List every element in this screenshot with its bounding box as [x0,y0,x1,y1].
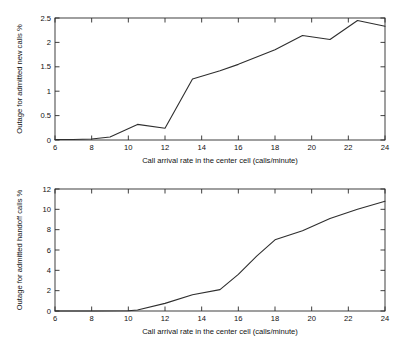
x-tick-label: 6 [53,143,57,152]
y-tick-label: 2 [47,286,51,295]
chart-panel-new-calls: 68101214161820222400.511.522.5Call arriv… [0,0,407,174]
x-tick-label: 8 [90,314,94,323]
y-tick-label: 2 [47,38,51,47]
x-tick-label: 12 [161,143,169,152]
x-tick-label: 14 [197,143,205,152]
x-tick-label: 12 [161,314,169,323]
x-tick-label: 18 [271,143,279,152]
new-calls-outage-chart: 68101214161820222400.511.522.5Call arriv… [0,0,407,174]
y-tick-label: 12 [43,185,51,194]
y-tick-label: 1.5 [40,62,51,71]
x-tick-label: 24 [381,314,389,323]
y-axis-title: Outage for admitted new calls % [15,24,24,134]
x-tick-label: 8 [90,143,94,152]
series-line-handoff-calls-outage [55,201,385,311]
y-tick-label: 0.5 [40,111,51,120]
y-axis-title: Outage for admitted handoff calls % [15,189,24,310]
y-tick-label: 6 [47,246,51,255]
y-tick-label: 0 [47,136,51,145]
x-axis-title: Call arrival rate in the center cell (ca… [142,156,298,165]
x-tick-label: 16 [234,314,242,323]
y-tick-label: 8 [47,225,51,234]
y-tick-label: 1 [47,87,51,96]
y-tick-label: 10 [43,205,51,214]
x-tick-label: 20 [307,143,315,152]
x-tick-label: 16 [234,143,242,152]
x-tick-label: 20 [307,314,315,323]
x-tick-label: 22 [344,314,352,323]
x-tick-label: 24 [381,143,389,152]
y-tick-label: 0 [47,307,51,316]
x-tick-label: 22 [344,143,352,152]
figure-container: 68101214161820222400.511.522.5Call arriv… [0,0,407,348]
y-tick-label: 4 [47,266,51,275]
x-tick-label: 10 [124,143,132,152]
x-tick-label: 18 [271,314,279,323]
x-tick-label: 6 [53,314,57,323]
series-line-new-calls-outage [55,20,385,139]
handoff-calls-outage-chart: 681012141618202224024681012Call arrival … [0,174,407,348]
x-tick-label: 10 [124,314,132,323]
plot-frame [55,189,385,311]
y-tick-label: 2.5 [40,14,51,23]
x-tick-label: 14 [197,314,205,323]
chart-panel-handoff-calls: 681012141618202224024681012Call arrival … [0,174,407,348]
x-axis-title: Call arrival rate in the center cell (ca… [142,327,298,336]
